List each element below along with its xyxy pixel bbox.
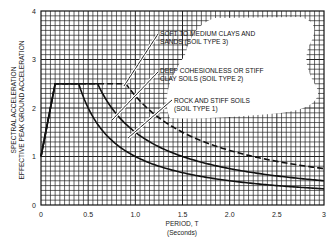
chart: 00.51.01.52.02.53 01234 PERIOD, T (Secon…	[0, 0, 333, 247]
x-tick-label: 3	[322, 211, 326, 218]
annotation-soil-type-3-line1: SOFT TO MEDIUM CLAYS AND	[160, 30, 255, 37]
x-tick-label: 2.0	[225, 211, 235, 218]
y-tick-label: 1	[32, 153, 36, 160]
y-tick-label: 2	[32, 105, 36, 112]
x-tick-label: 2.5	[272, 211, 282, 218]
annotation-soil-type-3-line2: SANDS (SOIL TYPE 3)	[160, 38, 228, 46]
y-axis-label-line1: SPECTRAL ACCELERATION	[10, 66, 17, 153]
annotation-soil-type-2-line1: DEEP COHESIONLESS OR STIFF	[160, 67, 264, 74]
y-axis-ticks: 01234	[32, 8, 36, 209]
annotation-soil-type-1-line2: (SOIL TYPE 1)	[174, 105, 218, 113]
x-axis-sublabel: (Seconds)	[167, 229, 197, 237]
x-tick-label: 0.5	[83, 211, 93, 218]
y-tick-label: 3	[32, 56, 36, 63]
y-axis-label-line2: EFFECTIVE PEAK GROUND ACCELERATION	[18, 40, 25, 179]
annotation-soil-type-2-line2: CLAY SOILS (SOIL TYPE 2)	[160, 75, 243, 83]
x-tick-label: 1.5	[178, 211, 188, 218]
y-tick-label: 0	[32, 202, 36, 209]
annotation-soil-type-1-line1: ROCK AND STIFF SOILS	[174, 97, 250, 104]
x-tick-label: 1.0	[130, 211, 140, 218]
y-tick-label: 4	[32, 8, 36, 15]
x-axis-ticks: 00.51.01.52.02.53	[39, 211, 326, 218]
x-tick-label: 0	[39, 211, 43, 218]
x-axis-label: PERIOD, T	[166, 220, 199, 227]
